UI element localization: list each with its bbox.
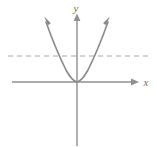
x-axis-label: x xyxy=(143,76,149,88)
x-axis-arrow xyxy=(131,79,139,86)
y-axis-arrow xyxy=(74,14,81,22)
y-axis-label: y xyxy=(73,2,79,14)
parabola-left-arrow xyxy=(44,17,51,26)
parabola-figure: x y xyxy=(0,0,157,146)
y-axis xyxy=(74,14,81,147)
parabola-right-arrow xyxy=(103,17,110,26)
figure-canvas: x y xyxy=(0,0,157,146)
